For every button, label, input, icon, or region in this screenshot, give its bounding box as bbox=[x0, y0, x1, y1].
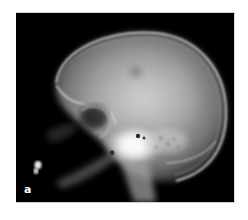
page: a bbox=[0, 0, 248, 220]
xray-figure-panel: a bbox=[16, 12, 235, 203]
panel-label: a bbox=[24, 184, 31, 195]
skull-xray-image bbox=[16, 13, 234, 202]
